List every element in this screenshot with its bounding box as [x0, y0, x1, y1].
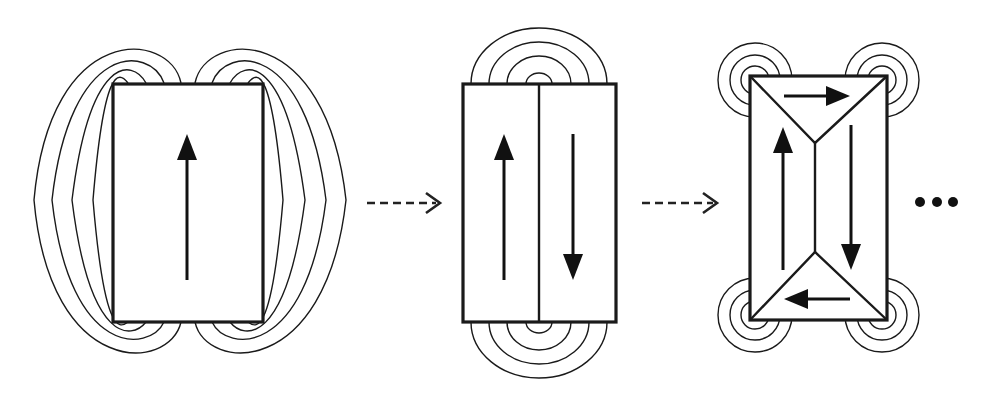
transition-arrow-icon [642, 193, 717, 213]
stage-two-domain [463, 28, 616, 378]
ellipsis-icon [915, 197, 958, 207]
stage-single-domain [34, 49, 346, 353]
magnet-body [750, 76, 887, 320]
stage-closure-domain [718, 43, 919, 352]
transition-arrow-icon [367, 193, 440, 213]
domain-diagram [0, 0, 985, 403]
